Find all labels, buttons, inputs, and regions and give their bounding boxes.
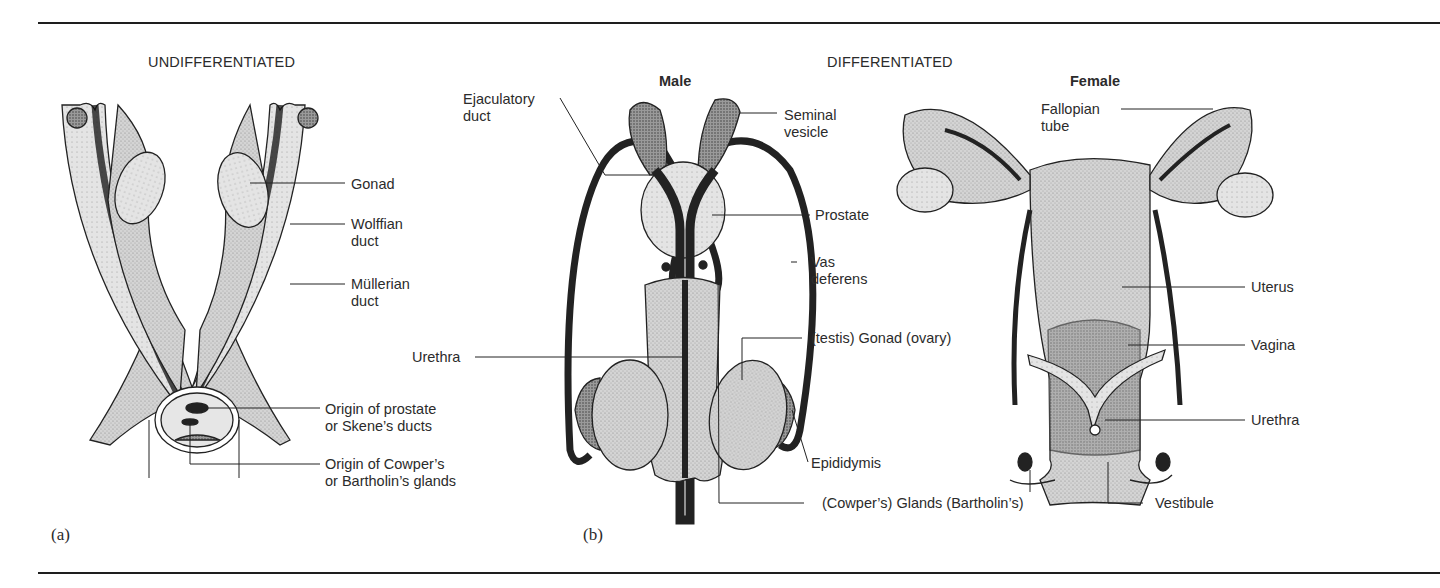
label-line: Fallopian bbox=[1041, 101, 1100, 118]
label-line: duct bbox=[351, 293, 410, 310]
label-ejaculatory-duct: Ejaculatory duct bbox=[463, 91, 535, 125]
label-urethra-male: Urethra bbox=[412, 349, 460, 366]
label-line: vesicle bbox=[784, 124, 836, 141]
label-vas-deferens: Vas deferens bbox=[811, 254, 867, 288]
label-line: deferens bbox=[811, 271, 867, 288]
subheading-female: Female bbox=[1070, 73, 1120, 89]
label-line: or Skene’s ducts bbox=[325, 418, 436, 435]
label-urethra-female: Urethra bbox=[1251, 412, 1299, 429]
label-origin-prostate: Origin of prostate or Skene’s ducts bbox=[325, 401, 436, 435]
label-seminal-vesicle: Seminal vesicle bbox=[784, 107, 836, 141]
label-line: Müllerian bbox=[351, 276, 410, 293]
label-prostate: Prostate bbox=[815, 207, 869, 224]
male-structure bbox=[568, 99, 813, 520]
label-line: tube bbox=[1041, 118, 1100, 135]
label-line: Seminal bbox=[784, 107, 836, 124]
heading-differentiated: DIFFERENTIATED bbox=[827, 54, 953, 70]
label-vestibule: Vestibule bbox=[1155, 495, 1214, 512]
label-epididymis: Epididymis bbox=[811, 455, 881, 472]
label-vagina: Vagina bbox=[1251, 337, 1295, 354]
label-line: Vas bbox=[811, 254, 867, 271]
label-fallopian-tube: Fallopian tube bbox=[1041, 101, 1100, 135]
label-gonad: Gonad bbox=[351, 176, 395, 193]
label-wolffian-duct: Wolffian duct bbox=[351, 216, 403, 250]
label-glands: (Cowper’s) Glands (Bartholin’s) bbox=[822, 495, 1023, 512]
subheading-male: Male bbox=[659, 73, 691, 89]
label-line: Origin of prostate bbox=[325, 401, 436, 418]
label-line: duct bbox=[463, 108, 535, 125]
heading-undifferentiated: UNDIFFERENTIATED bbox=[148, 54, 295, 70]
label-origin-cowper: Origin of Cowper’s or Bartholin’s glands bbox=[325, 456, 456, 490]
panel-label-b: (b) bbox=[583, 525, 603, 545]
label-line: or Bartholin’s glands bbox=[325, 473, 456, 490]
label-line: Wolffian bbox=[351, 216, 403, 233]
female-structure bbox=[897, 108, 1273, 505]
label-line: duct bbox=[351, 233, 403, 250]
label-line: Ejaculatory bbox=[463, 91, 535, 108]
label-mullerian-duct: Müllerian duct bbox=[351, 276, 410, 310]
label-gonad-testis-ovary: (testis) Gonad (ovary) bbox=[811, 330, 951, 347]
panel-label-a: (a) bbox=[51, 525, 70, 545]
label-uterus: Uterus bbox=[1251, 279, 1294, 296]
label-line: Origin of Cowper’s bbox=[325, 456, 456, 473]
undifferentiated-structure bbox=[62, 103, 318, 478]
